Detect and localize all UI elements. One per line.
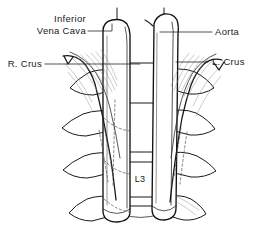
label-inferior-vena-cava-line1: Inferior bbox=[54, 13, 86, 24]
right-crus-tip-arrow bbox=[64, 56, 73, 64]
label-vertebra-l3: L3 bbox=[135, 174, 146, 184]
label-inferior-vena-cava-line2: Vena Cava bbox=[37, 25, 87, 36]
inferior-vena-cava bbox=[103, 20, 130, 223]
label-right-crus: R. Crus bbox=[8, 58, 42, 69]
anatomical-diagram: Inferior Vena Cava R. Crus Aorta L. Crus… bbox=[0, 0, 273, 247]
aorta-branch-stub bbox=[145, 20, 153, 26]
label-left-crus: L. Crus bbox=[212, 56, 245, 67]
aorta bbox=[145, 14, 178, 220]
label-aorta: Aorta bbox=[215, 26, 240, 37]
